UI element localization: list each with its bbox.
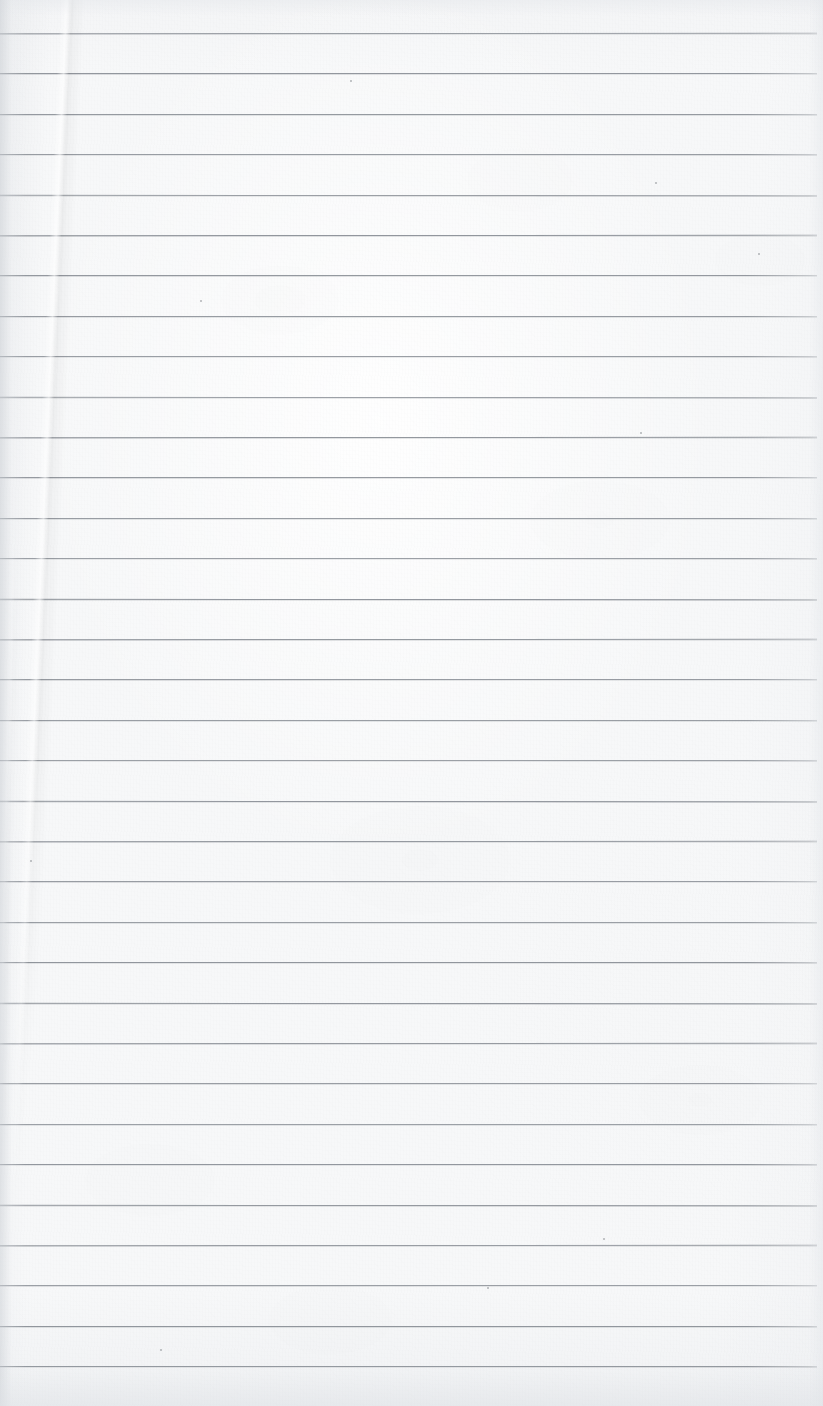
scanned-page	[0, 0, 823, 1406]
page-body-text	[0, 0, 823, 1406]
